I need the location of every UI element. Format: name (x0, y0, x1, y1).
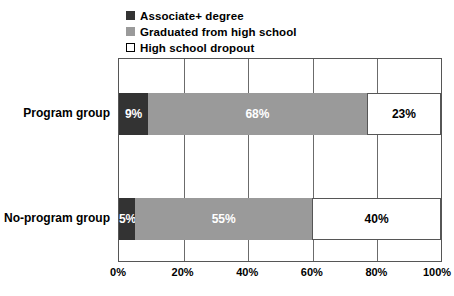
table-row: 5% 55% 40% (119, 198, 441, 240)
bar-segment-high-school-dropout: 23% (367, 93, 441, 135)
x-axis-tick-0: 0% (110, 266, 126, 278)
x-axis-tick-80: 80% (365, 266, 387, 278)
legend-item-label: Graduated from high school (140, 26, 297, 38)
stacked-bar-chart: Associate+ degree Graduated from high sc… (0, 0, 454, 296)
category-label-no-program-group: No-program group (0, 211, 110, 225)
legend-item-high-school-dropout: High school dropout (126, 40, 426, 55)
bar-segment-label: 40% (365, 213, 389, 225)
table-row: 9% 68% 23% (119, 93, 441, 135)
x-axis-tick-40: 40% (236, 266, 258, 278)
gray-square-icon (126, 27, 135, 36)
bar-segment-label: 5% (119, 213, 136, 225)
bar-segment-label: 9% (125, 108, 142, 120)
x-axis-tick-60: 60% (301, 266, 323, 278)
bar-segment-label: 55% (212, 213, 236, 225)
chart-legend: Associate+ degree Graduated from high sc… (126, 8, 426, 56)
bar-segment-label: 68% (245, 108, 269, 120)
category-label-program-group: Program group (0, 106, 110, 120)
legend-item-label: High school dropout (140, 42, 254, 54)
bar-segment-label: 23% (392, 108, 416, 120)
legend-item-label: Associate+ degree (140, 10, 244, 22)
bar-segment-high-school-dropout: 40% (312, 198, 441, 240)
x-axis-tick-20: 20% (172, 266, 194, 278)
plot-area: 9% 68% 23% 5% 55% 40% (118, 58, 442, 262)
bar-segment-associate-degree: 5% (119, 198, 135, 240)
dark-square-icon (126, 11, 135, 20)
white-square-icon (126, 43, 135, 52)
bar-segment-graduated-high-school: 68% (148, 93, 367, 135)
bar-segment-graduated-high-school: 55% (135, 198, 312, 240)
legend-item-graduated-high-school: Graduated from high school (126, 24, 426, 39)
legend-item-associate-degree: Associate+ degree (126, 8, 426, 23)
bar-segment-associate-degree: 9% (119, 93, 148, 135)
x-axis-tick-100: 100% (423, 266, 451, 278)
